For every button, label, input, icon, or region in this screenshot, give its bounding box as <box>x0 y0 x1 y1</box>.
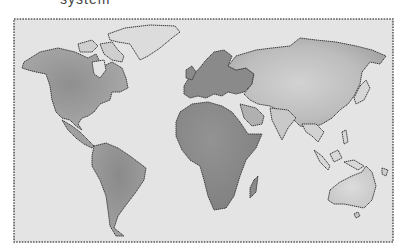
world-map <box>0 0 401 249</box>
